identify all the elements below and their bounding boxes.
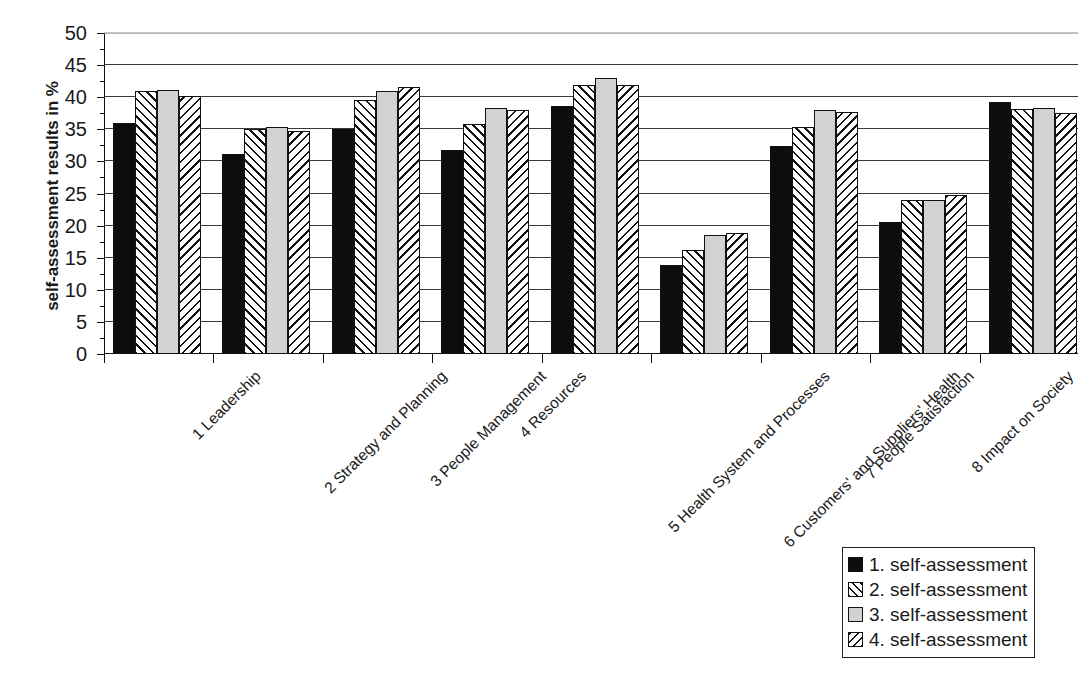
x-axis-label: 8 Impact on Society bbox=[969, 368, 1076, 475]
y-tick-mark-30 bbox=[97, 161, 104, 162]
y-tick-label-0: 0 bbox=[34, 344, 96, 364]
y-tick-label-30: 30 bbox=[34, 151, 96, 171]
legend-item: 1. self-assessment bbox=[848, 552, 1027, 577]
x-tick-mark bbox=[870, 354, 871, 363]
y-tick-label-35: 35 bbox=[34, 119, 96, 139]
legend-item-label: 1. self-assessment bbox=[869, 555, 1027, 574]
legend-swatch-icon bbox=[848, 632, 863, 647]
y-tick-label-50: 50 bbox=[34, 23, 96, 43]
y-tick-mark-50 bbox=[97, 33, 104, 34]
legend-item: 2. self-assessment bbox=[848, 577, 1027, 602]
legend-item: 4. self-assessment bbox=[848, 627, 1027, 652]
x-tick-mark bbox=[651, 354, 652, 363]
x-tick-mark bbox=[323, 354, 324, 363]
legend-item-label: 4. self-assessment bbox=[869, 630, 1027, 649]
plot-area bbox=[104, 33, 1078, 354]
y-tick-mark-40 bbox=[97, 97, 104, 98]
y-tick-label-45: 45 bbox=[34, 55, 96, 75]
y-tick-label-20: 20 bbox=[34, 216, 96, 236]
legend-item-label: 3. self-assessment bbox=[869, 605, 1027, 624]
y-tick-label-40: 40 bbox=[34, 87, 96, 107]
bar-chart: self-assessment results in % 05101520253… bbox=[0, 0, 1078, 677]
x-tick-mark bbox=[432, 354, 433, 363]
legend-swatch-icon bbox=[848, 557, 863, 572]
x-tick-mark bbox=[542, 354, 543, 363]
y-tick-label-15: 15 bbox=[34, 248, 96, 268]
y-tick-mark-5 bbox=[97, 322, 104, 323]
y-tick-mark-15 bbox=[97, 258, 104, 259]
chart-legend: 1. self-assessment2. self-assessment3. s… bbox=[842, 547, 1035, 658]
x-tick-mark bbox=[761, 354, 762, 363]
x-axis-label: 7 People Satisfaction bbox=[862, 368, 976, 482]
x-tick-mark bbox=[980, 354, 981, 363]
y-tick-mark-25 bbox=[97, 194, 104, 195]
y-tick-mark-45 bbox=[97, 65, 104, 66]
legend-swatch-icon bbox=[848, 607, 863, 622]
legend-swatch-icon bbox=[848, 582, 863, 597]
x-axis-label: 1 Leadership bbox=[189, 368, 263, 442]
y-tick-label-10: 10 bbox=[34, 280, 96, 300]
legend-item-label: 2. self-assessment bbox=[869, 580, 1027, 599]
y-tick-mark-0 bbox=[97, 354, 104, 355]
x-tick-mark bbox=[213, 354, 214, 363]
y-tick-mark-20 bbox=[97, 226, 104, 227]
y-tick-label-5: 5 bbox=[34, 312, 96, 332]
x-tick-mark bbox=[104, 354, 105, 363]
y-tick-mark-10 bbox=[97, 290, 104, 291]
legend-item: 3. self-assessment bbox=[848, 602, 1027, 627]
y-tick-mark-35 bbox=[97, 129, 104, 130]
plot-frame bbox=[104, 33, 1078, 354]
y-tick-label-25: 25 bbox=[34, 184, 96, 204]
